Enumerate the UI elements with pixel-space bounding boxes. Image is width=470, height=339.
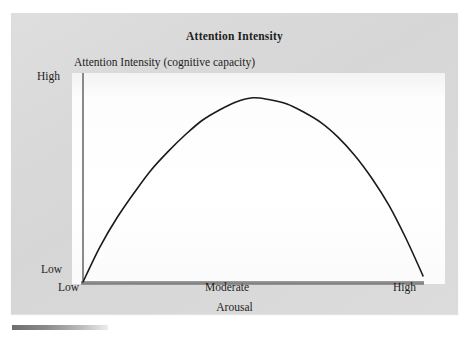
x-axis-line	[81, 281, 424, 285]
scanned-page: Attention Intensity Attention Intensity …	[0, 0, 470, 339]
figure-card: Attention Intensity Attention Intensity …	[11, 13, 458, 314]
y-tick-low: Low	[41, 263, 62, 275]
plot-area	[72, 73, 445, 284]
footer-gradient-rule	[12, 325, 108, 330]
chart-title: Attention Intensity	[11, 30, 458, 42]
x-tick-low: Low	[58, 281, 79, 293]
y-axis-line	[82, 73, 84, 284]
y-axis-caption: Attention Intensity (cognitive capacity)	[74, 56, 255, 68]
page-divider	[11, 314, 458, 315]
x-axis-title: Arousal	[11, 301, 458, 313]
y-tick-high: High	[37, 70, 60, 82]
x-tick-moderate: Moderate	[205, 281, 249, 293]
x-tick-high: High	[393, 281, 416, 293]
